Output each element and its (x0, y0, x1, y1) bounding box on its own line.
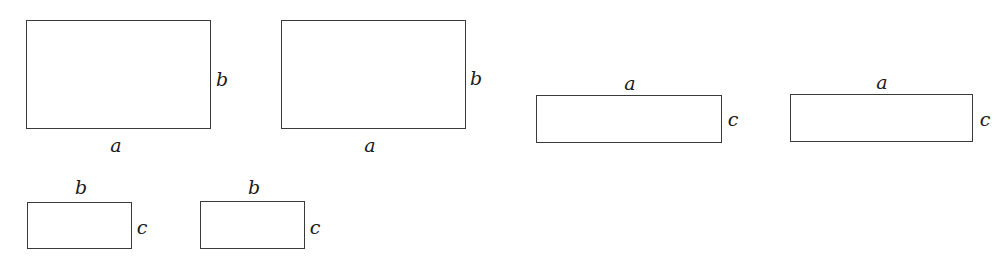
rectangle-r1 (26, 20, 211, 129)
side-label-a: a (110, 136, 121, 155)
side-label-b: b (248, 178, 260, 197)
rectangle-r4 (790, 94, 973, 142)
rectangle-r2 (281, 20, 466, 129)
side-label-a: a (364, 136, 375, 155)
side-label-b: b (470, 69, 482, 88)
rectangle-r3 (536, 95, 722, 143)
side-label-a: a (624, 74, 635, 93)
side-label-c: c (137, 218, 148, 237)
side-label-c: c (980, 110, 991, 129)
rectangle-r5 (27, 202, 132, 249)
side-label-b: b (75, 178, 87, 197)
side-label-a: a (876, 73, 887, 92)
side-label-c: c (310, 218, 321, 237)
rectangle-r6 (200, 201, 305, 249)
side-label-b: b (216, 70, 228, 89)
side-label-c: c (728, 110, 739, 129)
